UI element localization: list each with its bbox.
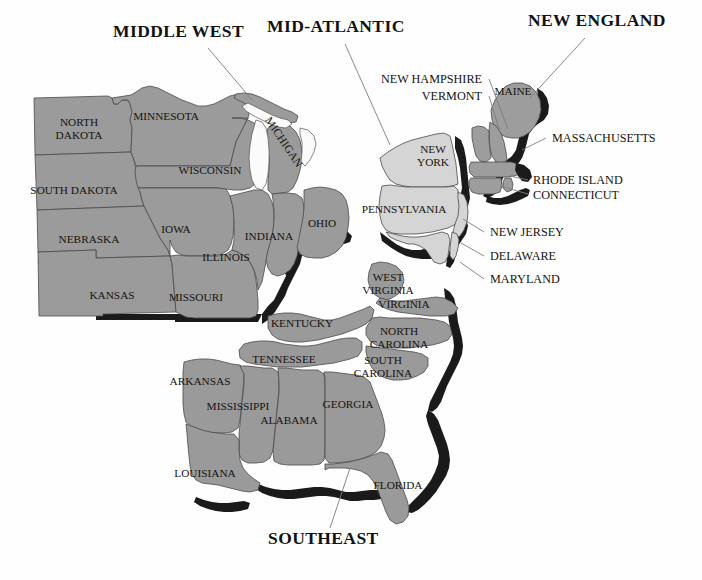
map-canvas: MIDDLE WESTMID-ATLANTICNEW ENGLANDSOUTHE…	[0, 0, 702, 580]
state-label-line: IOWA	[161, 223, 191, 235]
region-title-middle-west: MIDDLE WEST	[113, 21, 244, 41]
callout-label-rhode-island: RHODE ISLAND	[533, 173, 623, 187]
regions-map: MIDDLE WESTMID-ATLANTICNEW ENGLANDSOUTHE…	[0, 0, 702, 580]
state-arkansas[interactable]	[183, 359, 244, 433]
state-label-kentucky: KENTUCKY	[271, 317, 333, 329]
state-vermont[interactable]	[472, 126, 491, 162]
state-kansas[interactable]	[38, 250, 176, 316]
state-label-ohio: OHIO	[308, 217, 336, 229]
state-georgia[interactable]	[324, 372, 385, 463]
state-label-line: VIRGINIA	[362, 284, 414, 296]
state-label-new-york: NEWYORK	[417, 143, 450, 168]
callout-label-massachusetts: MASSACHUSETTS	[552, 131, 656, 145]
state-label-iowa: IOWA	[161, 223, 191, 235]
state-minnesota[interactable]	[112, 86, 250, 166]
state-label-minnesota: MINNESOTA	[133, 110, 199, 122]
state-label-line: CAROLINA	[354, 367, 413, 379]
state-label-kansas: KANSAS	[89, 289, 134, 301]
state-label-arkansas: ARKANSAS	[170, 375, 231, 387]
state-label-north-dakota: NORTHDAKOTA	[56, 116, 104, 141]
callout-label-vermont: VERMONT	[422, 89, 483, 103]
state-label-line: KENTUCKY	[271, 317, 333, 329]
state-label-line: CAROLINA	[370, 338, 429, 350]
state-label-line: TENNESSEE	[252, 353, 315, 365]
callout-leader-maryland	[460, 262, 484, 279]
state-label-line: DAKOTA	[56, 129, 104, 141]
callout-label-new-hampshire: NEW HAMPSHIRE	[381, 72, 482, 86]
state-label-tennessee: TENNESSEE	[252, 353, 315, 365]
state-label-line: WEST	[373, 271, 404, 283]
state-label-missouri: MISSOURI	[169, 291, 223, 303]
state-label-line: MINNESOTA	[133, 110, 199, 122]
callout-label-connecticut: CONNECTICUT	[533, 188, 620, 202]
state-connecticut[interactable]	[469, 178, 502, 194]
state-south-dakota[interactable]	[35, 152, 144, 210]
state-label-line: OHIO	[308, 217, 336, 229]
state-label-mississippi: MISSISSIPPI	[207, 400, 270, 412]
state-label-line: NEBRASKA	[59, 233, 121, 245]
state-label-line: SOUTH	[364, 354, 402, 366]
state-label-line: MISSOURI	[169, 291, 223, 303]
callout-label-maryland: MARYLAND	[490, 272, 560, 286]
state-label-line: GEORGIA	[323, 398, 375, 410]
state-label-line: KANSAS	[89, 289, 134, 301]
state-label-line: NEW	[420, 143, 446, 155]
state-label-line: LOUISIANA	[174, 467, 236, 479]
callout-label-new-jersey: NEW JERSEY	[490, 225, 564, 239]
state-label-line: WISCONSIN	[179, 164, 242, 176]
state-label-line: ILLINOIS	[202, 251, 250, 263]
state-delaware[interactable]	[450, 232, 459, 260]
callout-label-delaware: DELAWARE	[490, 249, 556, 263]
leader-new-england	[530, 38, 585, 98]
state-label-virginia: VIRGINIA	[378, 298, 430, 310]
state-label-line: MISSISSIPPI	[207, 400, 270, 412]
state-label-line: PENNSYLVANIA	[362, 203, 448, 215]
region-title-mid-atlantic: MID-ATLANTIC	[267, 16, 405, 36]
state-label-line: VIRGINIA	[378, 298, 430, 310]
state-label-line: NORTH	[60, 116, 98, 128]
state-label-louisiana: LOUISIANA	[174, 467, 236, 479]
region-title-new-england: NEW ENGLAND	[528, 10, 666, 30]
state-label-indiana: INDIANA	[245, 230, 294, 242]
leader-middle-west	[208, 48, 252, 100]
state-label-line: ARKANSAS	[170, 375, 231, 387]
state-label-nebraska: NEBRASKA	[59, 233, 121, 245]
state-label-line: NORTH	[380, 325, 418, 337]
state-label-pennsylvania: PENNSYLVANIA	[362, 203, 448, 215]
state-label-alabama: ALABAMA	[260, 414, 318, 426]
state-label-maine: MAINE	[494, 85, 531, 97]
state-label-line: FLORIDA	[374, 479, 424, 491]
state-label-wisconsin: WISCONSIN	[179, 164, 242, 176]
region-title-southeast: SOUTHEAST	[268, 528, 379, 548]
state-label-line: YORK	[417, 156, 450, 168]
state-label-illinois: ILLINOIS	[202, 251, 250, 263]
state-label-line: MAINE	[494, 85, 531, 97]
leader-mid-atlantic	[345, 44, 390, 145]
state-label-georgia: GEORGIA	[323, 398, 375, 410]
state-label-line: INDIANA	[245, 230, 294, 242]
state-label-line: SOUTH DAKOTA	[30, 184, 118, 196]
state-rhode-island[interactable]	[503, 178, 513, 192]
state-massachusetts[interactable]	[469, 162, 522, 177]
state-label-south-dakota: SOUTH DAKOTA	[30, 184, 118, 196]
callout-leader-delaware	[461, 243, 484, 256]
state-label-line: ALABAMA	[260, 414, 318, 426]
state-label-florida: FLORIDA	[374, 479, 424, 491]
